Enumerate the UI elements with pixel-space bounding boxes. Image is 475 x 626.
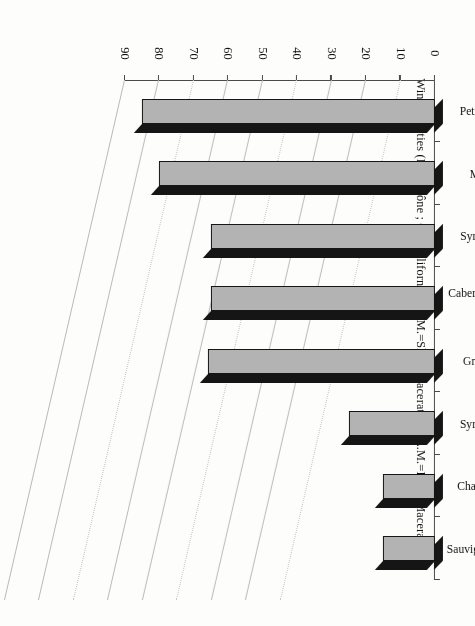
category-axis-tick [435,516,440,517]
category-axis-tick [435,579,440,580]
category-label: Sauvignon blanc Ca. [443,543,475,556]
bar-top-face [134,124,435,133]
value-axis-tick-label: 0 [428,39,443,69]
category-label: Syrah Rh.L.M. [443,230,475,243]
value-axis-tick [193,75,194,80]
bar [142,99,435,124]
bar-end-cap [434,411,443,445]
bar-end-cap [434,348,443,382]
bar-end-cap [434,286,443,320]
gridline [38,80,159,600]
category-label-line: Syrah Rh.C.M. [443,418,475,431]
bar-front-face [383,536,435,561]
category-label-line: Grenache Rh. [443,355,475,368]
value-axis-tick-label: 20 [359,39,374,69]
bar-top-face [200,374,435,383]
category-label-line: Sauvignon blanc Ca. [443,543,475,556]
bar-end-cap [434,473,443,507]
value-axis-tick-label: 40 [290,39,305,69]
bar [383,536,435,561]
value-axis-tick-label: 50 [255,39,270,69]
value-axis-line [125,80,435,81]
value-axis-tick [124,75,125,80]
category-axis-tick [435,391,440,392]
bar [383,474,435,499]
rotated-figure-container: Wine varieties (Rh=Rhône ; Ca=California… [0,0,475,626]
value-axis-tick-label: 90 [118,39,133,69]
gridline [4,80,125,600]
value-axis-tick [434,75,435,80]
category-axis-tick [435,141,440,142]
gridline [175,80,297,600]
category-label-line: Chardonnay Ca. [443,480,475,493]
value-axis-tick-label: 60 [221,39,236,69]
gridline [279,80,401,600]
bar [211,224,435,249]
category-label: Grenache Rh. [443,355,475,368]
bar [349,411,435,436]
bar-front-face [211,286,435,311]
category-label-line: Syrah Rh.L.M. [443,230,475,243]
category-axis-tick [435,204,440,205]
value-axis-tick-label: 10 [393,39,408,69]
bar-end-cap [434,536,443,570]
category-axis-tick [435,329,440,330]
bar-top-face [203,249,435,258]
bar-front-face [211,224,435,249]
category-label: Syrah Rh.C.M. [443,418,475,431]
bar-front-face [349,411,435,436]
bar-end-cap [434,223,443,257]
category-label: Merlot Ca. [443,168,475,181]
category-label: Cabernet-sauvignonCa. [443,287,475,313]
category-label-line: Cabernet-sauvignon [443,287,475,300]
category-axis-tick [435,454,440,455]
chart-plot-area: 0102030405060708090 Petite sirah Ca.Merl… [125,80,435,580]
category-label: Chardonnay Ca. [443,480,475,493]
bar [208,349,435,374]
bar-front-face [383,474,435,499]
bar-end-cap [434,161,443,195]
category-label-line: Petite sirah Ca. [443,105,475,118]
bar [159,161,435,186]
value-axis-tick-label: 70 [186,39,201,69]
bar-front-face [159,161,435,186]
gridline [107,80,228,600]
bar-top-face [203,311,435,320]
value-axis-tick [227,75,228,80]
value-axis-tick [296,75,297,80]
category-label: Petite sirah Ca. [443,105,475,118]
value-axis-tick [158,75,159,80]
bar-front-face [208,349,435,374]
bar-top-face [341,436,435,445]
gridline [142,80,263,600]
bar-top-face [151,186,435,195]
category-axis-tick [435,266,440,267]
value-axis-tick [365,75,366,80]
value-axis-tick [399,75,400,80]
bar-front-face [142,99,435,124]
bar-end-cap [434,98,443,132]
value-axis-tick [262,75,263,80]
bar [211,286,435,311]
gridline [72,80,194,600]
category-label-line: Ca. [443,300,475,313]
value-axis-tick [330,75,331,80]
gridline [245,80,366,600]
value-axis-tick-label: 30 [324,39,339,69]
bar-top-face [375,561,435,570]
gridline [211,80,332,600]
bar-top-face [375,499,435,508]
value-axis-tick-label: 80 [152,39,167,69]
category-label-line: Merlot Ca. [443,168,475,181]
